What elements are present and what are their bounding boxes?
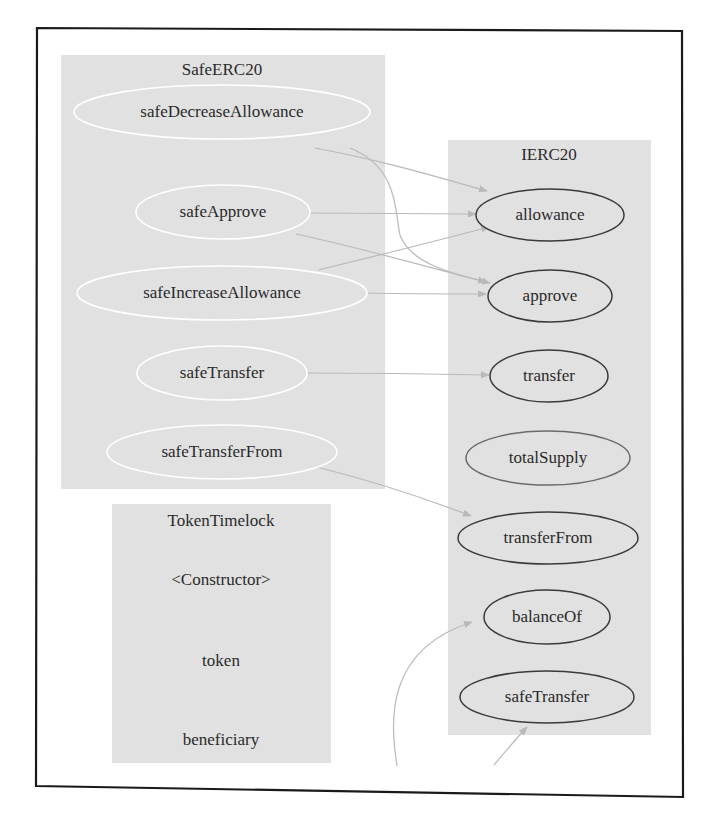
node-constructor[interactable]: <Constructor> bbox=[171, 570, 270, 589]
node-transfer-label: transfer bbox=[523, 366, 575, 385]
node-safedecreaseallowance[interactable]: safeDecreaseAllowance bbox=[74, 85, 370, 139]
node-transferfrom[interactable]: transferFrom bbox=[458, 512, 638, 564]
node-safeincreaseallowance-label: safeIncreaseAllowance bbox=[143, 283, 301, 302]
node-safetransferfrom[interactable]: safeTransferFrom bbox=[107, 425, 337, 479]
node-safetransferfrom-label: safeTransferFrom bbox=[161, 442, 282, 461]
node-allowance-label: allowance bbox=[516, 205, 585, 224]
node-safetransfer-src[interactable]: safeTransfer bbox=[137, 346, 307, 400]
node-approve-label: approve bbox=[523, 286, 578, 305]
node-safedecreaseallowance-label: safeDecreaseAllowance bbox=[140, 102, 303, 121]
node-safeapprove[interactable]: safeApprove bbox=[136, 185, 310, 239]
node-safeapprove-label: safeApprove bbox=[180, 202, 267, 221]
node-safeincreaseallowance[interactable]: safeIncreaseAllowance bbox=[77, 266, 367, 320]
node-safetransfer-dst[interactable]: safeTransfer bbox=[460, 671, 634, 723]
cluster-tokentimelock: TokenTimelock bbox=[112, 504, 331, 763]
node-balanceof-label: balanceOf bbox=[512, 607, 582, 626]
node-token[interactable]: token bbox=[202, 651, 240, 670]
call-graph-diagram: SafeERC20 IERC20 TokenTimelock safeDecre… bbox=[0, 0, 706, 823]
node-approve[interactable]: approve bbox=[488, 270, 612, 322]
node-beneficiary[interactable]: beneficiary bbox=[183, 730, 260, 749]
node-balanceof[interactable]: balanceOf bbox=[484, 590, 610, 644]
cluster-safeerc20-title: SafeERC20 bbox=[182, 60, 262, 79]
node-safetransfer-dst-label: safeTransfer bbox=[505, 687, 590, 706]
node-transferfrom-label: transferFrom bbox=[504, 528, 593, 547]
cluster-tokentimelock-background bbox=[112, 504, 331, 763]
cluster-ierc20-title: IERC20 bbox=[521, 145, 577, 164]
cluster-tokentimelock-title: TokenTimelock bbox=[168, 511, 275, 530]
node-allowance[interactable]: allowance bbox=[476, 189, 624, 241]
node-totalsupply[interactable]: totalSupply bbox=[466, 431, 630, 485]
node-transfer[interactable]: transfer bbox=[490, 350, 608, 402]
node-safetransfer-src-label: safeTransfer bbox=[180, 363, 265, 382]
node-totalsupply-label: totalSupply bbox=[509, 448, 588, 467]
